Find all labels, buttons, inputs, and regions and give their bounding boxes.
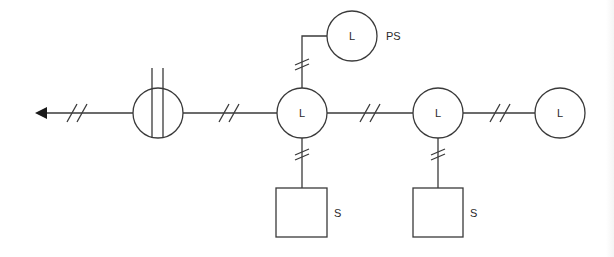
arrow-left-icon xyxy=(35,107,47,119)
edge-l2-l3 xyxy=(463,104,535,122)
meter-node xyxy=(133,68,183,138)
edge-l1-l2 xyxy=(327,104,413,122)
outgoing-line xyxy=(35,104,133,122)
page-edge-shadow xyxy=(606,0,614,257)
ps-node: L PS xyxy=(327,11,401,61)
s2-node: S xyxy=(413,188,477,237)
ps-side-label: PS xyxy=(386,30,401,42)
l1-node: L xyxy=(277,88,327,138)
edge-meter-l1 xyxy=(183,104,277,122)
s2-side-label: S xyxy=(470,207,477,219)
edge-l2-s2 xyxy=(431,138,445,188)
edge-l1-ps xyxy=(295,36,327,88)
l3-node: L xyxy=(535,88,585,138)
s1-node: S xyxy=(276,188,341,237)
network-diagram: L PS L L L S xyxy=(0,0,614,257)
l3-node-label: L xyxy=(557,107,563,119)
l1-node-label: L xyxy=(299,107,305,119)
l2-node-label: L xyxy=(435,107,441,119)
l2-node: L xyxy=(413,88,463,138)
s1-side-label: S xyxy=(334,207,341,219)
ps-node-label: L xyxy=(349,30,355,42)
edge-l1-s1 xyxy=(295,138,309,188)
